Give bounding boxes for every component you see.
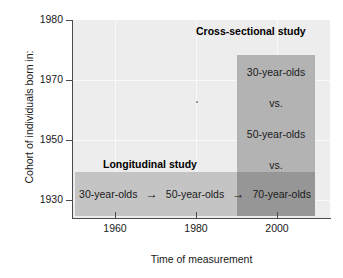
x-axis-line [72, 218, 331, 219]
x-axis-tick-1960 [115, 212, 116, 219]
cross-sectional-separator-1: vs. [237, 97, 315, 109]
cohort-study-design-figure: 1980 1970 1950 1930 1960 1980 2000 Cohor… [0, 0, 343, 278]
cross-sectional-study-heading: Cross-sectional study [196, 25, 306, 37]
x-axis-tick-1980 [196, 212, 197, 219]
y-axis-tick-1970 [66, 80, 73, 81]
y-axis-tick-1950 [66, 140, 73, 141]
longitudinal-stage-30-year-olds: 30-year-olds [79, 188, 137, 200]
y-axis-line [72, 20, 73, 219]
y-axis-title: Cohort of individuals born in: [23, 17, 35, 217]
longitudinal-study-heading: Longitudinal study [103, 158, 197, 170]
x-axis-tick-2000 [277, 212, 278, 219]
cross-sectional-item-50-year-olds: 50-year-olds [237, 128, 315, 140]
x-axis-label-2000: 2000 [257, 222, 297, 234]
arrow-right-icon-1: → [146, 189, 158, 199]
scan-artifact-speck [196, 101, 198, 103]
longitudinal-stage-70-year-olds: 70-year-olds [253, 188, 311, 200]
y-axis-tick-1930 [66, 200, 73, 201]
x-axis-label-1980: 1980 [176, 222, 216, 234]
x-axis-label-1960: 1960 [95, 222, 135, 234]
cross-sectional-separator-2: vs. [237, 159, 315, 171]
cross-sectional-item-30-year-olds: 30-year-olds [237, 66, 315, 78]
arrow-right-icon-2: → [232, 189, 244, 199]
x-axis-title: Time of measurement [73, 253, 330, 265]
longitudinal-stage-50-year-olds: 50-year-olds [166, 188, 224, 200]
longitudinal-study-sequence: 30-year-olds → 50-year-olds → 70-year-ol… [75, 187, 315, 201]
y-axis-tick-1980 [66, 20, 73, 21]
